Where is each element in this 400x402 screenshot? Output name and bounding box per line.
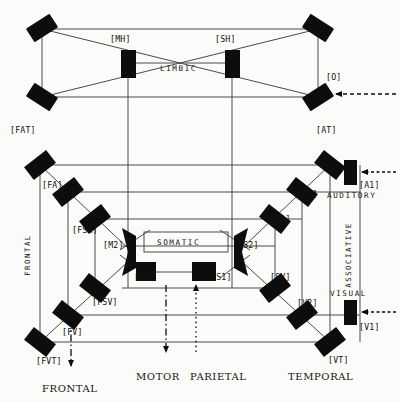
limbic-node-MH (121, 50, 136, 78)
label-V1: [V1] (359, 322, 380, 332)
label-AT: [AT] (316, 125, 337, 135)
lobe-label-frontal: FRONTAL (42, 383, 98, 394)
lobe-label-temporal: TEMPORAL (288, 371, 353, 382)
node-M2 (122, 228, 136, 276)
limbic-region-label: LIMBIC (160, 64, 197, 73)
label-A1: [A1] (359, 180, 380, 190)
label-V2: [V2] (297, 298, 318, 308)
label-A2: [A2] (297, 189, 318, 199)
node-A1 (344, 160, 357, 185)
label-SV: [SV] (270, 272, 291, 282)
cortex-diamond-nodes (24, 150, 346, 357)
limbic-label-O: [O] (326, 72, 341, 82)
label-FV: [FV] (62, 327, 83, 337)
label-VT: [VT] (328, 355, 349, 365)
somatic-label: SOMATIC (157, 238, 200, 247)
node-S2 (234, 228, 248, 276)
limbic-node-SH (225, 50, 240, 78)
modality-label-visual: VISUAL (330, 289, 367, 298)
label-SA: [SA] (270, 214, 291, 224)
cortex-group: SOMATIC (10, 110, 396, 394)
diagram-svg: [MH] [SH] [O] LIMBIC (0, 0, 400, 402)
label-FSV: [FSV] (92, 297, 118, 307)
label-FVT: [FVT] (36, 356, 62, 366)
limbic-group: [MH] [SH] [O] LIMBIC (26, 14, 396, 112)
label-S1: [S1] (211, 272, 232, 282)
label-FA: [FA] (42, 180, 63, 190)
limbic-label-MH: [MH] (110, 34, 131, 44)
label-M2: [M2] (103, 240, 124, 250)
modality-label-frontal-side: FRONTAL (23, 234, 32, 276)
lobe-label-parietal: PARIETAL (190, 371, 247, 382)
label-M1: [M1] (134, 272, 155, 282)
limbic-label-SH: [SH] (215, 34, 236, 44)
label-FSA: [FSA] (72, 225, 98, 235)
node-V1 (344, 300, 357, 325)
modality-label-associative: ASSOCIATIVE (344, 222, 353, 287)
label-FAT: [FAT] (10, 125, 36, 135)
diagram-canvas: [MH] [SH] [O] LIMBIC (0, 0, 400, 402)
label-S2: [S2] (238, 240, 259, 250)
modality-label-auditory: AUDITORY (327, 191, 376, 200)
lobe-label-motor: MOTOR (136, 371, 180, 382)
